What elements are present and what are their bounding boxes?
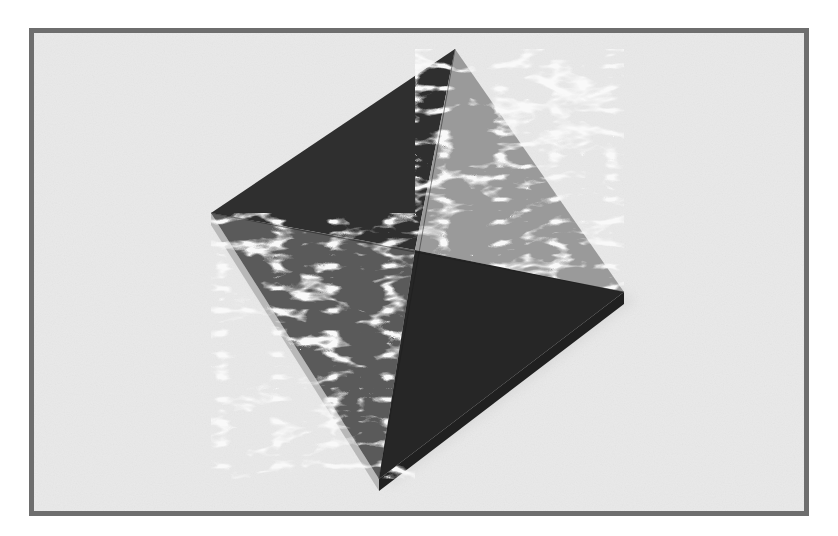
photo-stage [0,0,838,536]
origami-box-photo [0,0,838,536]
